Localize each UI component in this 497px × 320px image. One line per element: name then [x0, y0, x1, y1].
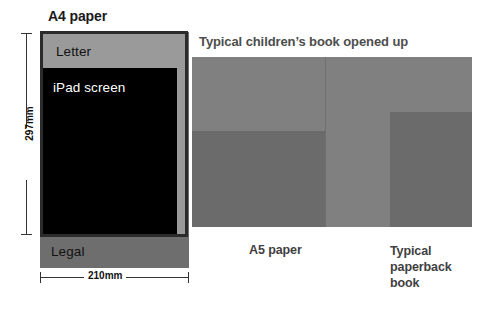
- paperback-label-line-2: paperback: [390, 259, 490, 275]
- childrens-book-fold-line: [325, 57, 326, 227]
- a5-paper-label: A5 paper: [249, 243, 302, 257]
- letter-label: Letter: [56, 44, 91, 59]
- paperback-book-label: Typical paperback book: [390, 243, 490, 291]
- size-comparison-diagram: A4 paper Legal Letter iPad screen 297mm …: [0, 0, 497, 320]
- paperback-label-line-3: book: [390, 275, 490, 291]
- width-dimension-cap-right: [188, 272, 189, 283]
- childrens-book-title: Typical children’s book opened up: [199, 34, 408, 49]
- height-dimension-label: 297mm: [24, 89, 35, 159]
- legal-label: Legal: [51, 244, 85, 259]
- ipad-screen-shape: iPad screen: [43, 68, 177, 234]
- ipad-screen-label: iPad screen: [53, 80, 125, 95]
- a5-paper-shape: [192, 131, 325, 227]
- paperback-book-shape: [390, 112, 472, 227]
- paperback-label-line-1: Typical: [390, 243, 490, 259]
- height-dimension-cap-top: [21, 33, 32, 34]
- width-dimension-cap-left: [40, 272, 41, 283]
- height-dimension-cap-bottom: [21, 234, 32, 235]
- width-dimension-label: 210mm: [84, 270, 126, 281]
- a4-paper-title: A4 paper: [48, 8, 107, 24]
